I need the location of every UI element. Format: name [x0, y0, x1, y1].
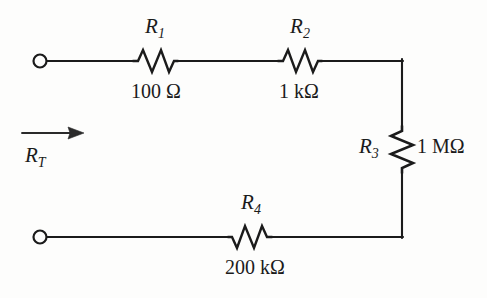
circuit-diagram: R1 100 Ω R2 1 kΩ R3 1 MΩ R4 200 kΩ RT	[0, 0, 487, 298]
label-r3-refdes: R3	[359, 136, 379, 157]
label-r3-value: 1 MΩ	[417, 136, 465, 156]
circuit-schematic-svg	[0, 0, 487, 298]
bottom-left-terminal-node	[34, 231, 47, 244]
label-r4-value: 200 kΩ	[225, 257, 285, 277]
label-r1-symbol: R	[145, 14, 158, 38]
label-r4-symbol: R	[241, 190, 254, 214]
total-resistance-arrow-head	[68, 127, 84, 139]
resistor-symbol-r3	[391, 126, 413, 173]
label-r4-subscript: 4	[254, 202, 261, 217]
label-r4-refdes: R4	[241, 192, 261, 213]
label-r1-value: 100 Ω	[131, 81, 181, 101]
resistor-symbol-r1	[133, 50, 178, 72]
label-r1-subscript: 1	[158, 26, 165, 41]
resistor-symbol-r2	[278, 50, 322, 72]
label-r3-subscript: 3	[372, 146, 379, 161]
label-r2-symbol: R	[290, 14, 303, 38]
top-left-terminal-node	[34, 55, 47, 68]
label-r2-subscript: 2	[303, 26, 310, 41]
label-r1-refdes: R1	[145, 16, 165, 37]
label-r2-refdes: R2	[290, 16, 310, 37]
label-r3-symbol: R	[359, 134, 372, 158]
label-r2-value: 1 kΩ	[279, 81, 319, 101]
label-rt-symbol: R	[25, 143, 38, 167]
label-total-resistance: RT	[25, 145, 46, 166]
label-rt-subscript: T	[38, 155, 46, 170]
resistor-symbol-r4	[228, 226, 272, 248]
